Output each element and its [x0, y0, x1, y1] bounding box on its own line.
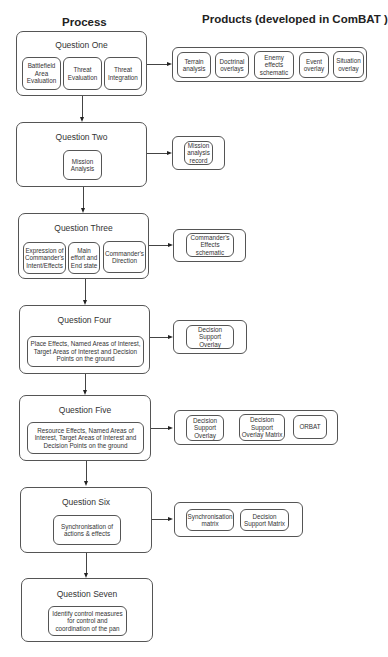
arrow-down-icon [84, 481, 88, 486]
question-four-box: Question Four Place Effects, Named Areas… [19, 305, 150, 374]
products-header: Products (developed in ComBAT ) [202, 13, 388, 25]
product-terrain-analysis: Terrain analysis [177, 52, 211, 78]
products-group-q3: Commander's Effects schematic [173, 229, 246, 262]
question-title: Question Five [20, 405, 150, 415]
connector-line [85, 374, 86, 391]
question-five-box: Question Five Resource Effects, Named Ar… [19, 395, 151, 461]
step-expression-of-commanders-intent: Expression of Commander's Intent/Effects [23, 242, 66, 274]
step-mission-analysis: Mission Analysis [63, 150, 102, 180]
step-place-effects: Place Effects, Named Areas of Interest, … [27, 336, 144, 367]
arrow-right-icon [168, 426, 173, 430]
products-group-q4: Decision Support Overlay [173, 320, 247, 354]
product-decision-support-overlay-matrix: Decision Support Overlay Matrix [239, 414, 285, 441]
connector-line [150, 337, 169, 338]
connector-line [86, 553, 87, 574]
question-title: Question One [17, 40, 146, 50]
question-title: Question Two [17, 132, 146, 142]
question-title: Question Four [20, 315, 149, 325]
product-decision-support-overlay: Decision Support Overlay [186, 325, 234, 349]
product-decision-support-overlay: Decision Support Overlay [186, 415, 224, 441]
product-enemy-effects-schematic: Enemy effects schematic [254, 51, 294, 79]
product-mission-analysis-record: Mission analysis record [184, 141, 213, 165]
product-synchronisation-matrix: Synchronisation matrix [186, 509, 234, 531]
products-group-q1: Terrain analysis Doctrinal overlays Enem… [172, 47, 367, 82]
products-group-q6: Synchronisation matrix Decision Support … [174, 502, 303, 537]
connector-line [151, 428, 169, 429]
product-situation-overlay: Situation overlay [333, 51, 364, 78]
products-group-q2: Mission analysis record [172, 136, 225, 170]
step-threat-integration: Threat Integration [104, 57, 142, 90]
step-identify-control-measures: Identify control measures for control an… [48, 606, 127, 636]
connector-line [85, 279, 86, 301]
products-group-q5: Decision Support Overlay Decision Suppor… [174, 410, 338, 445]
product-event-overlay: Event overlay [299, 52, 329, 78]
connector-line [86, 461, 87, 482]
product-decision-support-matrix: Decision Support Matrix [240, 509, 289, 531]
step-synchronisation: Synchronisation of actions & effects [53, 515, 121, 545]
connector-line [82, 96, 83, 118]
question-two-box: Question Two Mission Analysis [16, 122, 147, 187]
question-one-box: Question One Battlefield Area Evaluation… [16, 31, 147, 96]
question-six-box: Question Six Synchronisation of actions … [20, 487, 152, 553]
step-threat-evaluation: Threat Evaluation [63, 57, 102, 90]
product-doctrinal-overlays: Doctrinal overlays [215, 52, 249, 78]
product-orbat: ORBAT [293, 415, 327, 439]
question-title: Question Seven [22, 589, 152, 599]
question-three-box: Question Three Expression of Commander's… [18, 213, 149, 279]
connector-line [149, 245, 169, 246]
step-battlefield-area-evaluation: Battlefield Area Evaluation [22, 57, 61, 90]
question-title: Question Three [19, 223, 148, 233]
arrow-right-icon [168, 517, 173, 521]
product-commanders-effects-schematic: Commander's Effects schematic [186, 233, 234, 257]
connector-line [147, 153, 168, 154]
step-resource-effects: Resource Effects, Named Areas of Interes… [27, 422, 144, 454]
step-commanders-direction: Commander's Direction [103, 241, 146, 273]
question-title: Question Six [21, 497, 151, 507]
question-seven-box: Question Seven Identify control measures… [21, 578, 153, 642]
connector-line [83, 187, 84, 209]
step-main-effort-end-state: Main effort and End state [68, 242, 100, 274]
process-header: Process [62, 16, 107, 28]
connector-line [147, 64, 168, 65]
connector-line [152, 519, 169, 520]
